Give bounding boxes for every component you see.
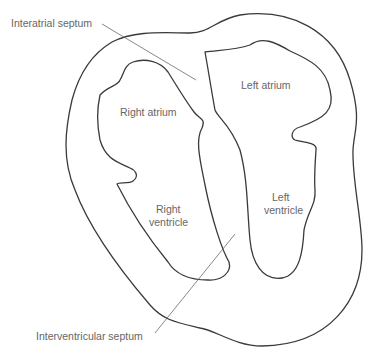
interventricular-septum-leader-line bbox=[155, 234, 235, 333]
heart-svg: Interatrial septum Left atrium Right atr… bbox=[0, 0, 376, 364]
label-right-ventricle-line2: ventricle bbox=[149, 216, 188, 228]
label-right-ventricle-line1: Right bbox=[156, 203, 181, 215]
label-interatrial-septum: Interatrial septum bbox=[11, 17, 92, 29]
label-right-atrium: Right atrium bbox=[120, 106, 177, 118]
label-left-ventricle-line2: ventricle bbox=[264, 204, 303, 216]
outer-heart-outline bbox=[66, 14, 362, 346]
label-left-ventricle-line1: Left bbox=[272, 191, 290, 203]
heart-diagram: Interatrial septum Left atrium Right atr… bbox=[0, 0, 376, 364]
label-interventricular-septum: Interventricular septum bbox=[36, 330, 143, 342]
right-chamber-outline bbox=[98, 60, 230, 280]
label-left-atrium: Left atrium bbox=[241, 79, 291, 91]
left-chamber-outline bbox=[205, 41, 331, 279]
